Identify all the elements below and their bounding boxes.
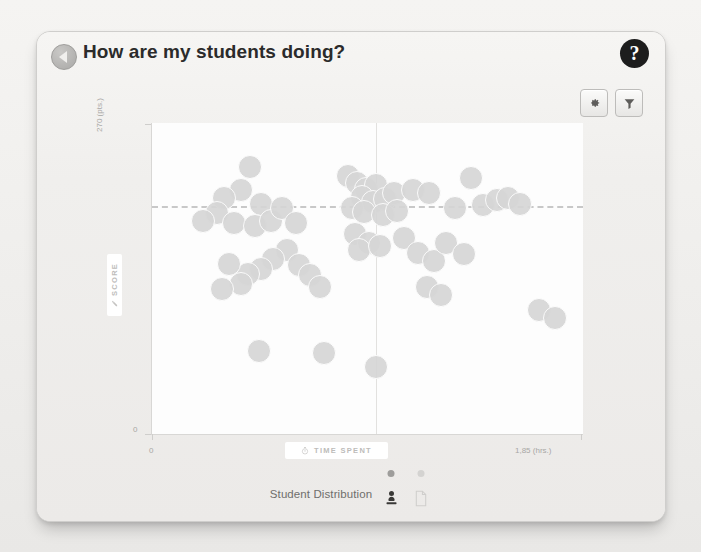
legend-label: Student Distribution: [270, 488, 372, 500]
data-point[interactable]: [417, 181, 441, 205]
data-point[interactable]: [543, 306, 567, 330]
clock-icon: [301, 447, 309, 455]
data-point[interactable]: [238, 155, 262, 179]
data-point[interactable]: [443, 196, 467, 220]
help-button[interactable]: ?: [620, 39, 649, 68]
y-axis-max-label: 270 (pts.): [95, 98, 104, 132]
students-view-toggle[interactable]: [380, 481, 402, 507]
x-tick-right: [581, 434, 582, 440]
dashboard-card: How are my students doing? ?: [36, 31, 666, 522]
assignments-view-indicator: [418, 470, 425, 477]
students-view-indicator: [388, 470, 395, 477]
data-point[interactable]: [459, 166, 483, 190]
x-tick-left: [152, 434, 153, 440]
y-axis-title-text: SCORE: [110, 263, 119, 296]
back-button[interactable]: [51, 44, 77, 70]
data-point[interactable]: [368, 234, 392, 258]
data-point[interactable]: [429, 283, 453, 307]
y-axis-title[interactable]: SCORE: [107, 254, 122, 316]
data-point[interactable]: [210, 277, 234, 301]
card-background: How are my students doing? ?: [37, 32, 665, 521]
data-point[interactable]: [508, 192, 532, 216]
filter-button[interactable]: [615, 89, 643, 117]
settings-button[interactable]: [580, 89, 608, 117]
x-axis-min-label: 0: [149, 446, 153, 455]
data-point[interactable]: [452, 242, 476, 266]
data-point[interactable]: [312, 341, 336, 365]
chart-legend: Student Distribution: [37, 481, 665, 507]
data-point[interactable]: [284, 211, 308, 235]
data-point[interactable]: [385, 199, 409, 223]
page-title: How are my students doing?: [83, 41, 345, 63]
data-point[interactable]: [308, 275, 332, 299]
data-point[interactable]: [247, 339, 271, 363]
x-axis-title-text: TIME SPENT: [314, 446, 372, 455]
data-point[interactable]: [191, 209, 215, 233]
data-point[interactable]: [364, 355, 388, 379]
data-point[interactable]: [347, 238, 371, 262]
x-axis-title[interactable]: TIME SPENT: [285, 442, 388, 459]
y-axis-min-label: 0: [133, 425, 137, 434]
card-header: How are my students doing? ?: [37, 32, 665, 78]
scatter-chart: 270 (pts.) 0 SCORE 0 1,: [37, 116, 665, 486]
time-average-reference-line: [376, 123, 377, 434]
back-triangle-icon: [59, 51, 67, 63]
chart-toolbar: [580, 89, 643, 117]
assignments-view-toggle[interactable]: [410, 481, 432, 507]
x-axis-max-label: 1,85 (hrs.): [515, 446, 551, 455]
person-icon: [384, 490, 399, 507]
document-icon: [414, 490, 428, 507]
funnel-icon: [623, 97, 636, 110]
gear-icon: [587, 96, 601, 110]
plot-area[interactable]: [151, 123, 583, 435]
screen: How are my students doing? ?: [0, 0, 701, 552]
pencil-icon: [111, 300, 118, 307]
